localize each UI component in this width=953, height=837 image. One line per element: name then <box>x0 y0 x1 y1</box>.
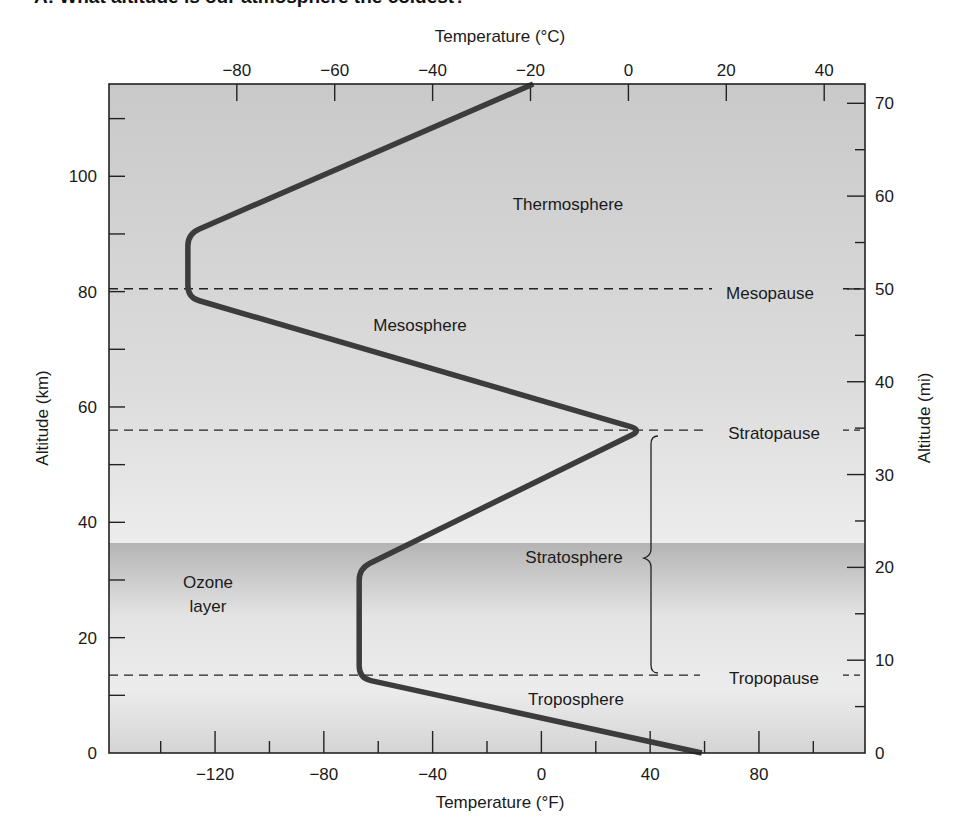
atmosphere-temperature-chart: −120−80−4004080−80−60−40−200204002040608… <box>0 0 953 837</box>
y2-tick-label: 50 <box>875 280 894 299</box>
y-tick-label: 60 <box>78 398 97 417</box>
y-tick-label: 0 <box>88 744 97 763</box>
x-tick-label: −80 <box>309 765 338 784</box>
y2-axis-title: Altitude (mi) <box>915 373 934 464</box>
y-tick-label: 40 <box>78 513 97 532</box>
y-tick-label: 100 <box>69 167 97 186</box>
x2-tick-label: −40 <box>418 61 447 80</box>
x2-axis-title: Temperature (°C) <box>435 27 566 46</box>
x-tick-label: −120 <box>196 765 234 784</box>
y2-tick-label: 20 <box>875 558 894 577</box>
x2-tick-label: −80 <box>222 61 251 80</box>
stratosphere-label: Stratosphere <box>525 548 622 567</box>
y-tick-label: 80 <box>78 283 97 302</box>
x-tick-label: 0 <box>537 765 546 784</box>
x2-tick-label: 0 <box>624 61 633 80</box>
mesopause-label: Mesopause <box>726 284 814 303</box>
x-tick-label: −40 <box>418 765 447 784</box>
x2-tick-label: 20 <box>717 61 736 80</box>
tropopause-label: Tropopause <box>729 669 819 688</box>
y2-tick-label: 60 <box>875 187 894 206</box>
stratopause-label: Stratopause <box>728 424 820 443</box>
x2-tick-label: −60 <box>320 61 349 80</box>
y-tick-label: 20 <box>78 629 97 648</box>
y-axis-title: Altitude (km) <box>33 370 52 465</box>
y2-tick-label: 40 <box>875 373 894 392</box>
y2-tick-label: 30 <box>875 466 894 485</box>
ozone-label-line2: layer <box>190 597 227 616</box>
y2-tick-label: 70 <box>875 94 894 113</box>
mesosphere-label: Mesosphere <box>373 316 467 335</box>
x-tick-label: 40 <box>641 765 660 784</box>
ozone-label-line1: Ozone <box>183 573 233 592</box>
x2-tick-label: −20 <box>516 61 545 80</box>
thermosphere-label: Thermosphere <box>513 195 624 214</box>
y2-tick-label: 0 <box>875 744 884 763</box>
x-axis-title: Temperature (°F) <box>436 793 565 812</box>
x2-tick-label: 40 <box>815 61 834 80</box>
troposphere-label: Troposphere <box>528 690 624 709</box>
x-tick-label: 80 <box>749 765 768 784</box>
y2-tick-label: 10 <box>875 651 894 670</box>
